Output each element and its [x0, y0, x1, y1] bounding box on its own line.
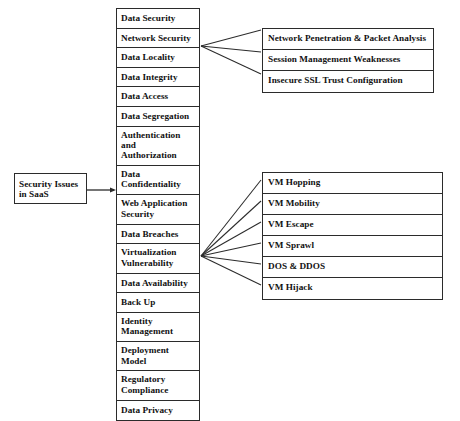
issue-row[interactable]: Data Segregation	[117, 107, 199, 127]
virtualization-child[interactable]: VM Hijack	[263, 278, 442, 299]
root-node-line-1: Security Issues	[19, 179, 86, 189]
network-security-child[interactable]: Insecure SSL Trust Configuration	[263, 71, 433, 92]
virtualization-child[interactable]: VM Sprawl	[263, 236, 442, 257]
issue-row-line: Data Access	[121, 91, 199, 101]
issue-row-line: Data Breaches	[121, 229, 199, 239]
issue-row-line: Data Privacy	[121, 405, 199, 415]
virtualization-child[interactable]: VM Hopping	[263, 173, 442, 194]
network-security-children-group: Network Penetration & Packet AnalysisSes…	[262, 28, 434, 93]
main-issue-column: Data SecurityNetwork SecurityData Locali…	[116, 8, 200, 421]
issue-row[interactable]: IdentityManagement	[117, 313, 199, 342]
network-security-child[interactable]: Session Management Weaknesses	[263, 50, 433, 71]
issue-row-line: Compliance	[121, 385, 199, 395]
issue-row[interactable]: VirtualizationVulnerability	[117, 244, 199, 273]
issue-row-line: Data Integrity	[121, 72, 199, 82]
virtualization-child[interactable]: VM Mobility	[263, 194, 442, 215]
virtualization-child[interactable]: VM Escape	[263, 215, 442, 236]
issue-row[interactable]: Data Integrity	[117, 68, 199, 88]
issue-row-line: Authentication	[121, 130, 199, 140]
issue-row-line: Vulnerability	[121, 258, 199, 268]
issue-row[interactable]: Web ApplicationSecurity	[117, 195, 199, 224]
issue-row[interactable]: Data Security	[117, 9, 199, 29]
network-security-fan	[201, 30, 261, 74]
issue-row[interactable]: AuthenticationandAuthorization	[117, 127, 199, 166]
issue-row-line: Authorization	[121, 150, 199, 160]
issue-row-line: Back Up	[121, 297, 199, 307]
issue-row[interactable]: Data Access	[117, 87, 199, 107]
issue-row[interactable]: Data Privacy	[117, 401, 199, 421]
issue-row-line: Management	[121, 326, 199, 336]
issue-row-line: Data Segregation	[121, 111, 199, 121]
root-to-column-arrow	[87, 187, 116, 192]
root-node-security-issues-in-saas[interactable]: Security Issues in SaaS	[14, 173, 87, 204]
issue-row[interactable]: Network Security	[117, 29, 199, 49]
virtualization-vulnerability-children-group: VM HoppingVM MobilityVM EscapeVM SprawlD…	[262, 172, 443, 300]
issue-row[interactable]: Data Breaches	[117, 225, 199, 245]
issue-row[interactable]: Data Availability	[117, 274, 199, 294]
issue-row-line: Web Application	[121, 198, 199, 208]
virtualization-fan	[201, 180, 261, 285]
issue-row-line: Virtualization	[121, 247, 199, 257]
issue-row-line: Deployment	[121, 345, 199, 355]
root-node-line-2: in SaaS	[19, 189, 86, 199]
issue-row-line: Data Security	[121, 13, 199, 23]
issue-row-line: Security	[121, 209, 199, 219]
issue-row-line: Network Security	[121, 33, 199, 43]
issue-row-line: and	[121, 140, 199, 150]
issue-row-line: Data Availability	[121, 278, 199, 288]
network-security-child[interactable]: Network Penetration & Packet Analysis	[263, 29, 433, 50]
issue-row-line: Data Locality	[121, 52, 199, 62]
issue-row-line: Data	[121, 169, 199, 179]
issue-row-line: Identity	[121, 316, 199, 326]
virtualization-child[interactable]: DOS & DDOS	[263, 257, 442, 278]
issue-row[interactable]: Back Up	[117, 293, 199, 313]
issue-row-line: Regulatory	[121, 374, 199, 384]
issue-row-line: Model	[121, 356, 199, 366]
issue-row[interactable]: Data Locality	[117, 48, 199, 68]
issue-row-line: Confidentiality	[121, 179, 199, 189]
issue-row[interactable]: DataConfidentiality	[117, 166, 199, 195]
issue-row[interactable]: DeploymentModel	[117, 342, 199, 371]
issue-row[interactable]: RegulatoryCompliance	[117, 371, 199, 400]
